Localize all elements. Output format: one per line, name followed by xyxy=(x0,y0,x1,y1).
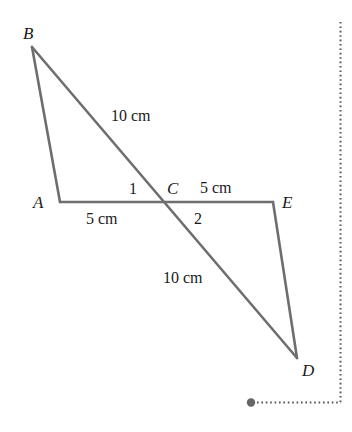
vertex-label-e: E xyxy=(282,194,292,211)
triangle-lines xyxy=(32,47,297,358)
angle-label-2: 2 xyxy=(194,211,202,227)
angle-label-1: 1 xyxy=(129,181,137,197)
handle-dot[interactable] xyxy=(247,398,255,406)
vertex-label-d: D xyxy=(302,362,314,379)
dotted-guide xyxy=(257,22,341,403)
geometry-diagram xyxy=(0,0,352,432)
vertex-label-b: B xyxy=(23,25,33,42)
measurement-bc: 10 cm xyxy=(111,108,151,124)
vertex-label-a: A xyxy=(33,194,43,211)
vertex-label-c: C xyxy=(167,180,178,197)
segment-ba xyxy=(32,47,60,202)
measurement-ac: 5 cm xyxy=(86,211,118,227)
measurement-ce: 5 cm xyxy=(200,180,232,196)
measurement-cd: 10 cm xyxy=(163,270,203,286)
